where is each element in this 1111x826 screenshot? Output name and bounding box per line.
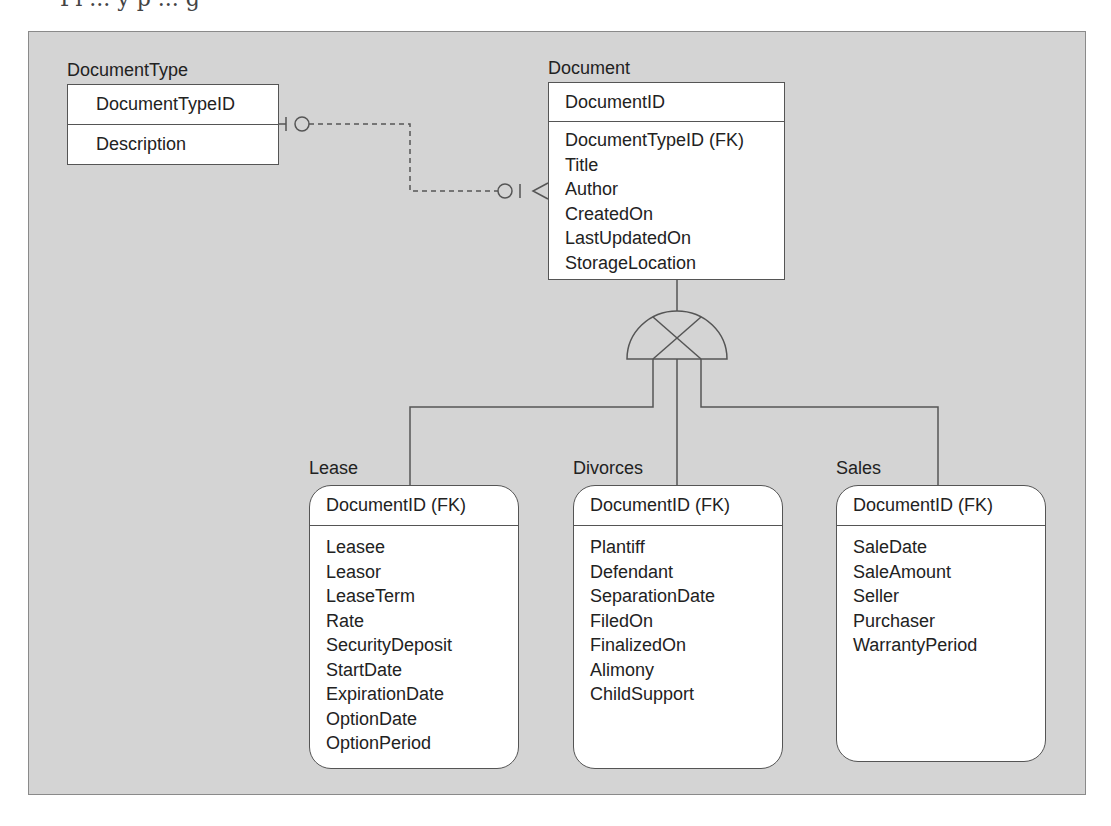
- attribute: Rate: [326, 609, 518, 634]
- zero-circle-icon: [295, 117, 309, 131]
- primary-key: DocumentID (FK): [310, 486, 518, 526]
- primary-key: DocumentTypeID: [68, 85, 278, 125]
- entity-box-divorces[interactable]: DocumentID (FK) Plantiff Defendant Separ…: [573, 485, 783, 769]
- attribute: ChildSupport: [590, 682, 782, 707]
- attribute-list: Plantiff Defendant SeparationDate FiledO…: [574, 526, 782, 707]
- primary-key: DocumentID: [549, 83, 784, 122]
- attribute: ExpirationDate: [326, 682, 518, 707]
- zero-circle-icon: [498, 184, 512, 198]
- attribute: LeaseTerm: [326, 584, 518, 609]
- entity-box-sales[interactable]: DocumentID (FK) SaleDate SaleAmount Sell…: [836, 485, 1046, 762]
- attribute: Author: [565, 177, 784, 202]
- subtype-line-sales: [701, 359, 938, 485]
- attribute-list: Leasee Leasor LeaseTerm Rate SecurityDep…: [310, 526, 518, 756]
- attribute: SaleAmount: [853, 560, 1045, 585]
- entity-name-documenttype: DocumentType: [67, 60, 188, 81]
- primary-key: DocumentID (FK): [574, 486, 782, 526]
- attribute: StorageLocation: [565, 251, 784, 276]
- attribute: FiledOn: [590, 609, 782, 634]
- attribute: SeparationDate: [590, 584, 782, 609]
- category-symbol: [410, 279, 938, 485]
- dashed-relationship-line: [309, 124, 498, 191]
- crows-foot-icon: [533, 183, 548, 199]
- attribute: LastUpdatedOn: [565, 226, 784, 251]
- attribute: OptionDate: [326, 707, 518, 732]
- entity-box-document[interactable]: DocumentID DocumentTypeID (FK) Title Aut…: [548, 82, 785, 280]
- attribute: Defendant: [590, 560, 782, 585]
- attribute: Leasor: [326, 560, 518, 585]
- primary-key: DocumentID (FK): [837, 486, 1045, 526]
- attribute: SecurityDeposit: [326, 633, 518, 658]
- attribute: DocumentTypeID (FK): [565, 128, 784, 153]
- relationship-documenttype-document: [278, 117, 548, 199]
- attribute: Leasee: [326, 535, 518, 560]
- attribute: Seller: [853, 584, 1045, 609]
- attribute-list: Description: [68, 125, 278, 164]
- attribute: Title: [565, 153, 784, 178]
- entity-name-lease: Lease: [309, 458, 358, 479]
- attribute: OptionPeriod: [326, 731, 518, 756]
- attribute-list: DocumentTypeID (FK) Title Author Created…: [549, 122, 784, 275]
- attribute: SaleDate: [853, 535, 1045, 560]
- entity-name-divorces: Divorces: [573, 458, 643, 479]
- attribute: StartDate: [326, 658, 518, 683]
- attribute: FinalizedOn: [590, 633, 782, 658]
- entity-box-documenttype[interactable]: DocumentTypeID Description: [67, 84, 279, 165]
- attribute-list: SaleDate SaleAmount Seller Purchaser War…: [837, 526, 1045, 658]
- entity-box-lease[interactable]: DocumentID (FK) Leasee Leasor LeaseTerm …: [309, 485, 519, 769]
- category-semicircle-icon: [627, 311, 727, 359]
- attribute: Plantiff: [590, 535, 782, 560]
- attribute: CreatedOn: [565, 202, 784, 227]
- entity-name-sales: Sales: [836, 458, 881, 479]
- attribute: Purchaser: [853, 609, 1045, 634]
- entity-name-document: Document: [548, 58, 630, 79]
- attribute: Description: [96, 132, 186, 157]
- attribute: Alimony: [590, 658, 782, 683]
- attribute: WarrantyPeriod: [853, 633, 1045, 658]
